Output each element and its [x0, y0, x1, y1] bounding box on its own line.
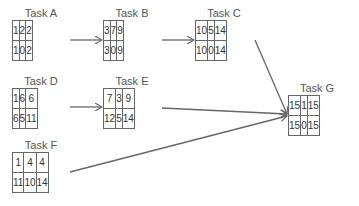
task-e-es: 7: [104, 89, 116, 109]
task-f-ef: 4: [36, 153, 48, 173]
task-g-ls: 15: [289, 116, 301, 136]
task-g-lf: 15: [307, 116, 319, 136]
task-a-label: Task A: [12, 7, 70, 19]
task-c-es: 10: [196, 21, 208, 41]
task-d-lf: 11: [26, 109, 37, 129]
task-g-label: Task G: [288, 82, 346, 94]
edge-c-g: [255, 40, 287, 114]
task-a-ef: 2: [26, 21, 33, 41]
task-a-grid: 122 102: [12, 20, 33, 61]
task-c-ls: 10: [196, 41, 208, 61]
task-c-lf: 14: [214, 41, 226, 61]
task-f-lf: 14: [36, 173, 48, 193]
task-f-label: Task F: [12, 139, 70, 151]
task-d-grid: 166 6511: [12, 88, 38, 129]
task-f-es: 1: [13, 153, 24, 173]
edge-e-g: [162, 108, 287, 114]
task-b-lf: 9: [117, 41, 124, 61]
task-f-grid: 144 111014: [12, 152, 49, 193]
task-d-ef: 6: [26, 89, 37, 109]
task-e-label: Task E: [103, 75, 161, 87]
task-d-label: Task D: [12, 75, 70, 87]
task-e-ls: 12: [104, 109, 116, 129]
task-g-grid: 15115 15015: [288, 95, 320, 136]
task-e-grid: 739 12514: [103, 88, 135, 129]
task-c-grid: 10514 10014: [195, 20, 227, 61]
task-f-slack: 10: [24, 173, 36, 193]
task-b-label: Task B: [103, 7, 161, 19]
task-a-lf: 2: [26, 41, 33, 61]
task-b-ef: 9: [117, 21, 124, 41]
task-c-label: Task C: [195, 7, 253, 19]
task-b-grid: 379 309: [103, 20, 124, 61]
task-f-ls: 11: [13, 173, 24, 193]
task-f-duration: 4: [24, 153, 36, 173]
task-e-lf: 14: [122, 109, 134, 129]
task-c-ef: 14: [214, 21, 226, 41]
task-e-ef: 9: [122, 89, 134, 109]
task-g-es: 15: [289, 96, 301, 116]
task-g-ef: 15: [307, 96, 319, 116]
